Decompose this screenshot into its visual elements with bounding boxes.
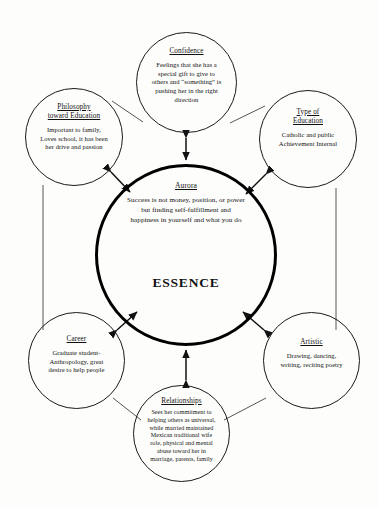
node-confidence: Confidence Feelings that she has a speci… bbox=[136, 32, 237, 133]
node-philosophy: Philosophy toward Education Important to… bbox=[25, 88, 123, 186]
node-relationships-title: Relationships bbox=[161, 397, 201, 406]
center-node-essence-label: ESSENCE bbox=[98, 275, 274, 291]
node-type-of-education: Type of Education Catholic and public Ac… bbox=[259, 90, 357, 188]
node-artistic-title: Artistic bbox=[300, 338, 322, 347]
node-type-of-education-body: Catholic and public Achievement Internal bbox=[279, 131, 337, 148]
node-artistic-body: Drawing, dancing, writing, reciting poet… bbox=[280, 352, 342, 369]
node-career-body: Graduate student- Anthropology, great de… bbox=[49, 349, 105, 375]
node-type-of-education-title: Type of Education bbox=[293, 108, 323, 126]
center-node-title: Aurora bbox=[175, 181, 197, 190]
node-confidence-body: Feelings that she has a special gift to … bbox=[152, 61, 222, 105]
center-node-essence: Aurora Success is not money, position, o… bbox=[95, 164, 277, 346]
node-career-title: Career bbox=[67, 335, 87, 344]
center-node-body: Success is not money, position, or power… bbox=[127, 196, 245, 226]
node-career: Career Graduate student- Anthropology, g… bbox=[28, 312, 125, 409]
node-confidence-title: Confidence bbox=[169, 47, 203, 56]
node-relationships-body: Sees her commitment to helping others as… bbox=[147, 409, 215, 464]
node-philosophy-title: Philosophy toward Education bbox=[48, 103, 101, 121]
essence-concept-map-page: Aurora Success is not money, position, o… bbox=[0, 0, 379, 508]
node-relationships: Relationships Sees her commitment to hel… bbox=[133, 385, 230, 482]
node-artistic: Artistic Drawing, dancing, writing, reci… bbox=[263, 312, 360, 409]
node-philosophy-body: Important to family, Loves school, it ha… bbox=[40, 126, 108, 152]
link-confidence-typeofeducation bbox=[230, 106, 265, 123]
link-relationships-artistic bbox=[224, 398, 266, 420]
